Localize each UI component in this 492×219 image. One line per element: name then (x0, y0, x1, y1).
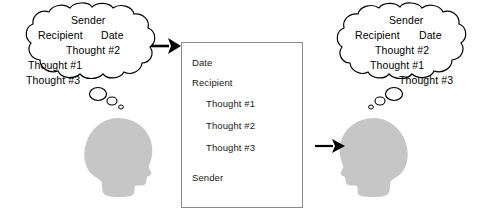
diagram-canvas: Sender Recipient Date Thought #2 Thought… (0, 0, 492, 219)
document-line-recipient: Recipient (192, 77, 233, 88)
left-bubble-line-thought-3: Thought #3 (26, 74, 80, 86)
diagram-text-layer: Sender Recipient Date Thought #2 Thought… (0, 0, 492, 219)
right-bubble-line-thought-1: Thought #1 (370, 59, 424, 71)
document-line-sender: Sender (192, 172, 223, 183)
document-line-thought-2: Thought #2 (206, 120, 255, 131)
left-bubble-line-sender: Sender (71, 14, 105, 26)
document-line-thought-1: Thought #1 (206, 98, 255, 109)
left-bubble-line-date: Date (101, 29, 124, 41)
document-line-date: Date (192, 57, 212, 68)
right-bubble-line-recipient: Recipient (355, 29, 400, 41)
left-bubble-line-thought-2: Thought #2 (66, 44, 120, 56)
document-line-thought-3: Thought #3 (206, 142, 255, 153)
left-bubble-line-recipient: Recipient (38, 29, 83, 41)
right-bubble-line-thought-3: Thought #3 (399, 74, 453, 86)
right-bubble-line-sender: Sender (389, 14, 423, 26)
left-bubble-line-thought-1: Thought #1 (28, 59, 82, 71)
right-bubble-line-thought-2: Thought #2 (375, 44, 429, 56)
right-bubble-line-date: Date (419, 29, 442, 41)
